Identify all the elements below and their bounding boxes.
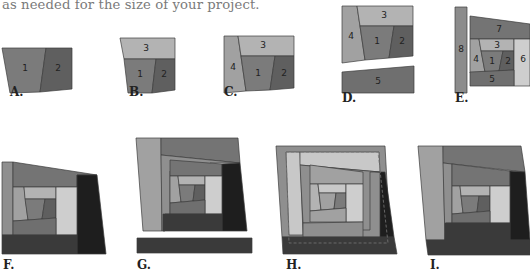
figure-label-g: G. — [137, 258, 151, 272]
figure-label-f: F. — [3, 258, 15, 272]
piece-number: 3 — [494, 40, 500, 50]
block-piece — [163, 214, 222, 231]
figure-label-b: B. — [129, 85, 143, 99]
figure-d: 43125 — [342, 6, 414, 93]
piece-number: 4 — [230, 62, 236, 72]
figure-h — [276, 146, 397, 254]
block-piece — [179, 185, 195, 202]
piece-number: 7 — [496, 24, 502, 34]
piece-number: 2 — [281, 68, 287, 78]
block-piece — [2, 162, 13, 235]
block-piece — [13, 218, 56, 235]
figure-label-h: H. — [286, 258, 302, 272]
piece-number: 3 — [143, 43, 149, 53]
piece-number: 1 — [255, 68, 261, 78]
block-piece — [477, 196, 490, 212]
block-piece — [418, 146, 445, 240]
figure-label-c: C. — [224, 85, 238, 99]
block-piece — [461, 196, 479, 213]
block-piece — [319, 193, 336, 210]
block-piece — [318, 184, 346, 193]
block-piece — [426, 240, 530, 255]
block-piece — [510, 171, 530, 240]
figure-label-i: I. — [430, 258, 440, 272]
figure-g — [136, 138, 252, 253]
block-piece — [178, 176, 205, 185]
piece-number: 2 — [399, 36, 405, 46]
block-piece — [77, 175, 106, 254]
block-piece — [445, 223, 510, 240]
piece-number: 3 — [381, 10, 387, 20]
block-piece — [282, 237, 397, 254]
piece-number: 5 — [375, 76, 381, 86]
figure-f — [2, 162, 106, 254]
block-piece — [222, 163, 247, 231]
piece-number: 4 — [473, 54, 479, 64]
block-piece — [334, 193, 346, 209]
block-piece — [136, 138, 162, 231]
block-piece — [24, 187, 56, 199]
piece-number: 3 — [260, 40, 266, 50]
piece-number: 2 — [505, 56, 511, 66]
piece-number: 4 — [348, 31, 354, 41]
figure-i — [418, 146, 530, 255]
figure-label-d: D. — [342, 91, 356, 105]
block-piece — [460, 186, 490, 196]
block-piece — [346, 184, 363, 222]
piece-number: 2 — [55, 63, 61, 73]
figure-label-e: E. — [455, 91, 468, 105]
piece-number: 2 — [161, 69, 167, 79]
figure-e: 87431265 — [455, 7, 530, 93]
piece-number: 1 — [22, 63, 28, 73]
figure-label-a: A. — [10, 85, 24, 99]
piece-number: 6 — [520, 54, 526, 64]
block-piece — [56, 187, 77, 235]
block-piece-3 — [238, 36, 294, 56]
block-piece — [490, 186, 510, 223]
block-piece — [2, 235, 77, 254]
quilt-block-diagrams: 1231243124312587431265 — [0, 0, 530, 273]
block-piece — [303, 222, 363, 237]
piece-number: 8 — [458, 44, 464, 54]
block-piece — [193, 185, 205, 201]
block-piece — [137, 238, 252, 253]
piece-number: 1 — [137, 69, 143, 79]
piece-number: 5 — [489, 74, 495, 84]
piece-number: 1 — [489, 56, 495, 66]
piece-number: 1 — [374, 36, 380, 46]
block-piece — [205, 176, 222, 214]
